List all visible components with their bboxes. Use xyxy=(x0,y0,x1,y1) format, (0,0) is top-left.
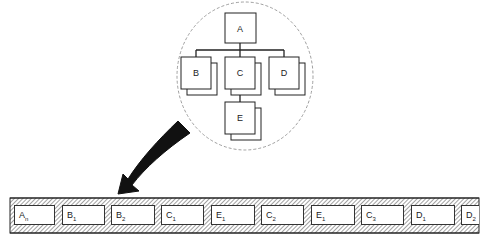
tree-node-e: E xyxy=(225,102,261,140)
strip-cell-b1: B1 xyxy=(62,205,105,225)
strip-cell-an: An xyxy=(14,205,55,225)
arrow-icon xyxy=(118,121,190,194)
strip-cell-c3: C3 xyxy=(361,205,404,225)
svg-text:E: E xyxy=(237,113,243,123)
strip-cell-e1-second: E1 xyxy=(311,205,355,225)
svg-text:A: A xyxy=(237,24,243,34)
tree-node-b: B xyxy=(181,57,217,95)
tree-node-a: A xyxy=(225,13,256,43)
tree-node-c: C xyxy=(225,57,261,95)
svg-text:D: D xyxy=(281,68,288,78)
strip-cell-c1: C1 xyxy=(161,205,204,225)
svg-text:C: C xyxy=(237,68,244,78)
svg-text:B: B xyxy=(193,68,199,78)
strip-cell-e1: E1 xyxy=(211,205,255,225)
strip-cell-d2: D2 xyxy=(461,205,479,225)
tree-node-d: D xyxy=(269,57,305,95)
strip-cell-d1: D1 xyxy=(411,205,455,225)
strip-cell-b2: B2 xyxy=(111,205,155,225)
strip-cell-c2: C2 xyxy=(261,205,304,225)
